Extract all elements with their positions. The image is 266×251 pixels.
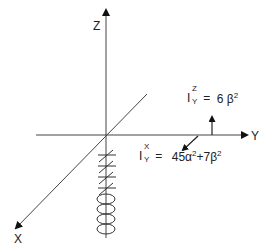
ix-formula: I X Y = 45α2+7β2 — [139, 145, 222, 167]
iz-formula: I Z Y = 6 β2 — [187, 87, 238, 109]
x-axis-label: X — [14, 233, 22, 245]
hatched-spring-segment — [98, 150, 116, 195]
z-axis-label: Z — [93, 20, 100, 32]
y-axis-label: Y — [251, 130, 259, 142]
x-axis — [16, 94, 147, 228]
coordinate-diagram — [0, 0, 266, 251]
